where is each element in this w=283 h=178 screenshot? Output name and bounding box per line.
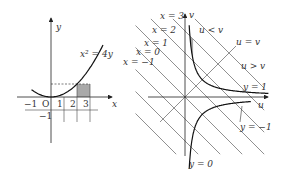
left-graph: y x x² = 4y −1 O 1 2 3 −1 bbox=[17, 18, 117, 143]
tick-label-1: 1 bbox=[57, 99, 63, 109]
region-label-u-gt-v: u > v bbox=[241, 61, 265, 71]
y-axis-label-left: y bbox=[55, 22, 62, 32]
line-label-x0: x = 0 bbox=[136, 47, 160, 57]
right-graph: v u x = 3 x = 2 x = 1 x = 0 x = −1 u < v… bbox=[123, 10, 272, 169]
curve-label-y0: y = 0 bbox=[188, 159, 213, 169]
line-u-eq-v bbox=[160, 46, 236, 122]
curve-label-y-neg1: y = −1 bbox=[239, 122, 272, 132]
curve-label-y1: y = 1 bbox=[242, 82, 267, 92]
level-line-x-3 bbox=[136, 114, 177, 155]
shaded-region-left bbox=[77, 84, 90, 97]
level-line-x-1 bbox=[136, 70, 221, 155]
diagram-canvas: y x x² = 4y −1 O 1 2 3 −1 v u x = 3 x = … bbox=[0, 0, 283, 178]
line-label-xneg1: x = −1 bbox=[123, 57, 155, 67]
x-axis-label-left: x bbox=[112, 99, 117, 109]
line-label-x3: x = 3 bbox=[160, 11, 184, 21]
y-tick-label-neg1: −1 bbox=[39, 111, 52, 121]
tick-label-3: 3 bbox=[83, 99, 89, 109]
diag-label-u-eq-v: u = v bbox=[236, 37, 260, 47]
region-label-u-lt-v: u < v bbox=[199, 25, 223, 35]
tick-label-neg1: −1 bbox=[24, 99, 37, 109]
tick-label-2: 2 bbox=[70, 99, 76, 109]
tick-label-origin: O bbox=[42, 99, 49, 109]
line-label-x2: x = 2 bbox=[152, 25, 176, 35]
u-axis-label: u bbox=[258, 100, 264, 110]
curve-label-left: x² = 4y bbox=[80, 49, 114, 59]
v-axis-label: v bbox=[189, 10, 194, 20]
level-line-x2 bbox=[151, 19, 264, 132]
